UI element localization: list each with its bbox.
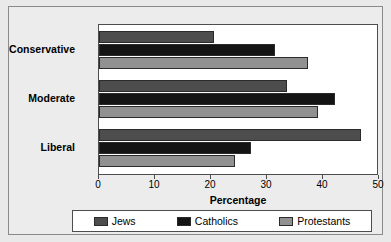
chart-legend: Jews Catholics Protestants <box>72 210 372 232</box>
legend-item-catholics: Catholics <box>177 215 238 227</box>
bar-conservative-protestants <box>99 57 308 69</box>
x-tick-label-0: 0 <box>78 179 118 190</box>
bar-group-moderate <box>99 80 377 119</box>
legend-label-catholics: Catholics <box>195 215 238 227</box>
bar-group-conservative <box>99 31 377 70</box>
bar-liberal-jews <box>99 129 361 141</box>
chart-figure: Conservative Moderate Liberal 010203040 <box>0 0 391 242</box>
category-label-liberal: Liberal <box>0 141 75 153</box>
legend-swatch-protestants <box>279 217 293 226</box>
x-tick-label-30: 30 <box>246 179 286 190</box>
legend-item-jews: Jews <box>94 215 136 227</box>
plot-area <box>98 24 378 175</box>
category-label-moderate: Moderate <box>0 92 75 104</box>
legend-swatch-catholics <box>177 217 191 226</box>
figure-frame: Conservative Moderate Liberal 010203040 <box>8 6 383 235</box>
legend-swatch-jews <box>94 217 108 226</box>
legend-item-protestants: Protestants <box>279 215 350 227</box>
bar-moderate-catholics <box>99 93 335 105</box>
bar-moderate-protestants <box>99 106 318 118</box>
x-tick-label-20: 20 <box>190 179 230 190</box>
x-tick-label-40: 40 <box>302 179 342 190</box>
x-tick-label-50: 50 <box>358 179 391 190</box>
bar-liberal-protestants <box>99 155 235 167</box>
legend-label-jews: Jews <box>112 215 136 227</box>
category-label-conservative: Conservative <box>0 43 75 55</box>
legend-label-protestants: Protestants <box>297 215 350 227</box>
bar-group-liberal <box>99 129 377 168</box>
x-tick-label-10: 10 <box>134 179 174 190</box>
bar-liberal-catholics <box>99 142 251 154</box>
x-axis-title: Percentage <box>98 194 378 206</box>
bar-conservative-catholics <box>99 44 275 56</box>
bar-moderate-jews <box>99 80 287 92</box>
bar-conservative-jews <box>99 31 214 43</box>
